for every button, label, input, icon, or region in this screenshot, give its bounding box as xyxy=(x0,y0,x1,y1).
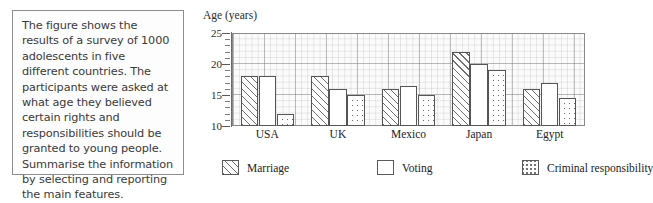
y-tick-label: 15 xyxy=(211,89,222,101)
y-tick-minor xyxy=(225,101,230,102)
bar xyxy=(311,76,329,126)
legend-swatch-voting xyxy=(377,160,394,175)
bar xyxy=(347,95,365,126)
y-axis-title: Age (years) xyxy=(203,9,257,21)
bar xyxy=(259,76,277,126)
y-tick-minor xyxy=(225,58,230,59)
bar xyxy=(241,76,259,126)
y-tick-minor xyxy=(225,39,230,40)
y-tick-minor xyxy=(225,107,230,108)
bar-group xyxy=(241,33,295,126)
x-axis-category-label: USA xyxy=(256,128,279,140)
bar xyxy=(523,89,541,126)
bar xyxy=(559,98,577,126)
y-tick-minor xyxy=(225,52,230,53)
y-tick-minor xyxy=(225,114,230,115)
y-tick-label: 20 xyxy=(211,58,222,70)
y-axis-labels: 10152025 xyxy=(196,27,230,132)
y-tick-minor xyxy=(225,76,230,77)
y-tick-major xyxy=(222,95,230,96)
y-tick-major xyxy=(222,33,230,34)
bar xyxy=(277,114,295,126)
bar xyxy=(470,64,488,126)
bar xyxy=(329,89,347,126)
bar xyxy=(400,86,418,126)
y-tick-minor xyxy=(225,45,230,46)
bar-group xyxy=(523,33,577,126)
bar xyxy=(488,70,506,126)
bar-groups xyxy=(232,33,585,126)
bar-group xyxy=(382,33,436,126)
x-axis-category-labels: USAUKMexicoJapanEgypt xyxy=(232,128,585,146)
y-tick-label: 10 xyxy=(211,120,222,132)
y-tick-minor xyxy=(225,120,230,121)
legend-swatch-criminal xyxy=(522,160,539,175)
chart-legend: MarriageVotingCriminal responsibility xyxy=(222,160,597,184)
bar xyxy=(541,83,559,126)
legend-label: Voting xyxy=(402,162,432,174)
legend-item: Voting xyxy=(377,160,432,175)
x-axis-category-label: Mexico xyxy=(391,128,426,140)
bar-group xyxy=(452,33,506,126)
legend-item: Marriage xyxy=(222,160,289,175)
bar xyxy=(382,89,400,126)
bar xyxy=(418,95,436,126)
x-axis-category-label: Egypt xyxy=(536,128,563,140)
task-prompt-box: The figure shows the results of a survey… xyxy=(12,10,184,175)
y-tick-minor xyxy=(225,83,230,84)
y-tick-major xyxy=(222,64,230,65)
legend-label: Marriage xyxy=(247,162,289,174)
legend-label: Criminal responsibility xyxy=(547,162,653,174)
x-axis-category-label: UK xyxy=(330,128,347,140)
legend-swatch-marriage xyxy=(222,160,239,175)
y-tick-minor xyxy=(225,70,230,71)
y-tick-label: 25 xyxy=(211,27,222,39)
y-tick-major xyxy=(222,126,230,127)
bar-chart: Age (years) 10152025 USAUKMexicoJapanEgy… xyxy=(196,0,601,201)
task-prompt-text: The figure shows the results of a survey… xyxy=(22,18,175,203)
y-tick-minor xyxy=(225,89,230,90)
x-axis-category-label: Japan xyxy=(466,128,492,140)
legend-item: Criminal responsibility xyxy=(522,160,653,175)
bar-group xyxy=(311,33,365,126)
bar xyxy=(452,52,470,126)
